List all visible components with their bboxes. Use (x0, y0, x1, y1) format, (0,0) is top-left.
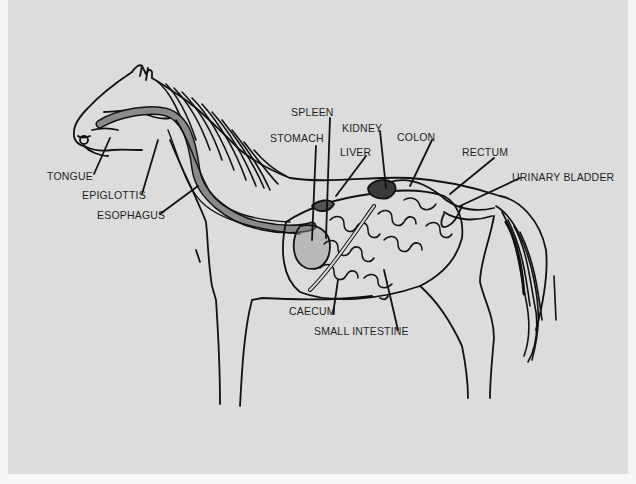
intestines (310, 198, 452, 290)
label-colon: COLON (397, 131, 435, 143)
label-urinary-bladder: URINARY BLADDER (512, 171, 614, 183)
horse-tail (496, 206, 556, 362)
label-esophagus: ESOPHAGUS (97, 209, 165, 221)
horse-hind-legs (380, 196, 547, 398)
label-kidney: KIDNEY (342, 122, 382, 134)
label-epiglottis: EPIGLOTTIS (82, 189, 146, 201)
spleen-organ (312, 200, 334, 211)
kidney-organ (368, 180, 395, 199)
label-stomach: STOMACH (270, 132, 324, 144)
horse-anatomy-drawing (0, 0, 636, 484)
label-liver: LIVER (340, 146, 371, 158)
label-small-intestine: SMALL INTESTINE (314, 325, 409, 337)
label-caecum: CAECUM (289, 305, 336, 317)
horse-mane (158, 82, 286, 190)
label-tongue: TONGUE (47, 170, 93, 182)
label-spleen: SPLEEN (291, 106, 334, 118)
label-rectum: RECTUM (462, 146, 508, 158)
